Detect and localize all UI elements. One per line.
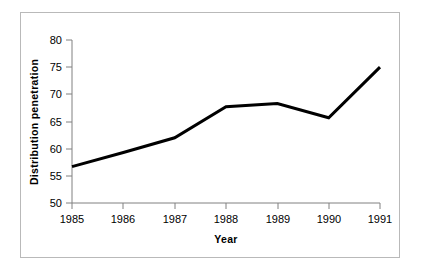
- x-axis-title: Year: [214, 233, 237, 245]
- y-tick-label-75: 75: [50, 61, 62, 73]
- x-tick-label-1987: 1987: [163, 213, 187, 225]
- line-chart: 80 75 70 65 60 55 50 1985 1986 1987 1988…: [0, 0, 422, 273]
- y-axis-title: Distribution penetration: [28, 59, 40, 185]
- y-tick-label-80: 80: [50, 34, 62, 46]
- x-tick-label-1985: 1985: [60, 213, 84, 225]
- x-tick-label-1986: 1986: [111, 213, 135, 225]
- y-tick-label-60: 60: [50, 143, 62, 155]
- x-tick-label-1991: 1991: [368, 213, 392, 225]
- x-tick-label-1988: 1988: [214, 213, 238, 225]
- data-series-line: [72, 67, 380, 166]
- x-axis-tick-labels: 1985 1986 1987 1988 1989 1990 1991: [60, 213, 392, 225]
- y-tick-label-50: 50: [50, 197, 62, 209]
- y-axis-tick-labels: 80 75 70 65 60 55 50: [50, 34, 62, 209]
- y-axis-ticks: [66, 40, 72, 203]
- x-tick-label-1989: 1989: [266, 213, 290, 225]
- x-axis-ticks: [72, 203, 380, 209]
- x-tick-label-1990: 1990: [317, 213, 341, 225]
- y-tick-label-55: 55: [50, 170, 62, 182]
- y-tick-label-65: 65: [50, 116, 62, 128]
- y-tick-label-70: 70: [50, 88, 62, 100]
- chart-figure: 80 75 70 65 60 55 50 1985 1986 1987 1988…: [0, 0, 422, 273]
